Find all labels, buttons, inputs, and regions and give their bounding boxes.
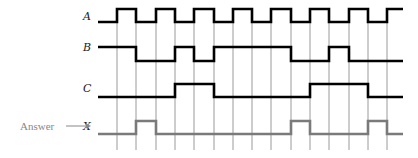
signal-label-c: C: [83, 82, 92, 95]
signal-labels: ABCX: [82, 10, 92, 133]
signal-label-b: B: [82, 41, 91, 54]
waveform-a: [98, 9, 403, 22]
timing-diagram: ABCX Answer: [0, 0, 418, 158]
answer-label: Answer: [20, 120, 55, 132]
waveform-x: [98, 121, 403, 134]
waveform-c: [98, 84, 403, 97]
waveforms: [98, 9, 403, 134]
signal-label-a: A: [82, 10, 91, 23]
time-gridlines: [117, 22, 387, 150]
waveform-b: [98, 47, 403, 61]
answer-arrow-icon: [66, 124, 91, 129]
